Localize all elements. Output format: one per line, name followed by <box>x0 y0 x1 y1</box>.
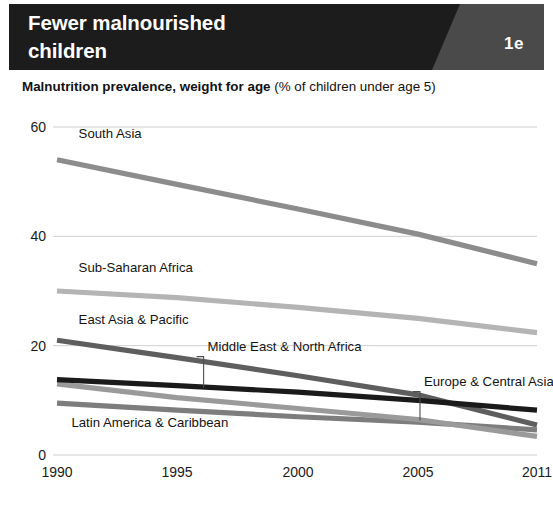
x-tick-label: 2011 <box>522 464 552 480</box>
plot-area: 0204060 South AsiaSub-Saharan AfricaEast… <box>0 0 553 505</box>
line-chart-svg: 0204060 South AsiaSub-Saharan AfricaEast… <box>0 0 553 505</box>
x-tick-label: 2000 <box>282 464 313 480</box>
series-label-middle-east-north-africa: Middle East & North Africa <box>208 339 363 354</box>
chart-figure: Fewer malnourished children 1e Malnutrit… <box>0 0 553 505</box>
series-label-europe-central-asia: Europe & Central Asia <box>424 374 553 389</box>
y-tick-label: 0 <box>38 447 46 463</box>
x-tick-label: 1995 <box>161 464 192 480</box>
data-line-south-asia <box>57 160 537 264</box>
series-label-east-asia-pacific: East Asia & Pacific <box>79 312 189 327</box>
series-label-south-asia: South Asia <box>79 126 143 141</box>
series-label-sub-saharan-africa: Sub-Saharan Africa <box>79 260 194 275</box>
y-axis-tick-labels-group: 0204060 <box>30 119 46 463</box>
data-lines-group <box>57 160 537 437</box>
series-label-latin-america-caribbean: Latin America & Caribbean <box>71 415 228 430</box>
x-axis-tick-labels-group: 19901995200020052011 <box>41 464 552 480</box>
y-tick-label: 60 <box>30 119 46 135</box>
x-tick-label: 1990 <box>41 464 72 480</box>
y-tick-label: 40 <box>30 228 46 244</box>
y-tick-label: 20 <box>30 338 46 354</box>
x-tick-label: 2005 <box>402 464 433 480</box>
